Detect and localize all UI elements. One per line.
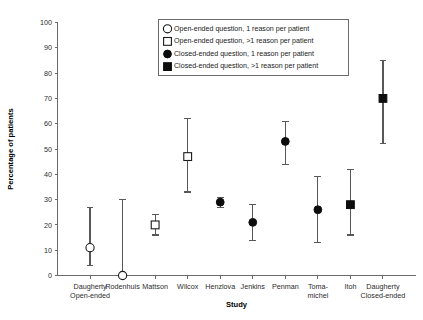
legend-item-label: Closed-ended question, 1 reason per pati… <box>174 50 314 58</box>
marker-filled-square <box>379 95 387 103</box>
x-axis-tick-label: Jenkins <box>241 282 266 291</box>
data-point[interactable] <box>216 197 224 207</box>
y-axis-tick-label: 70 <box>44 94 52 103</box>
y-axis-tick-label: 0 <box>48 271 52 280</box>
marker-open-square <box>151 221 159 229</box>
x-axis-tick-label: Itoh <box>344 282 356 291</box>
marker-filled-circle <box>281 138 289 146</box>
x-axis-tick-label: Daugherty <box>366 282 400 291</box>
x-axis-tick-label: Daugherty <box>73 282 107 291</box>
y-axis-tick-label: 100 <box>40 18 52 27</box>
y-axis-tick-label: 20 <box>44 221 52 230</box>
x-axis-tick-label: Mattson <box>142 282 168 291</box>
chart-figure: 0102030405060708090100DaughertyOpen-ende… <box>0 0 423 320</box>
legend-item[interactable]: Closed-ended question, 1 reason per pati… <box>164 50 314 58</box>
marker-filled-circle <box>216 198 224 206</box>
marker-open-circle <box>163 25 171 33</box>
y-axis-title: Percentage of patients <box>6 108 15 189</box>
legend-item[interactable]: Closed-ended question, >1 reason per pat… <box>164 62 319 70</box>
x-axis-tick-label: Toma- <box>308 282 329 291</box>
y-axis-tick-label: 50 <box>44 145 52 154</box>
x-axis-tick-label: Penman <box>272 282 299 291</box>
data-point[interactable] <box>184 119 192 192</box>
legend: Open-ended question, 1 reason per patien… <box>159 20 349 76</box>
data-point[interactable] <box>118 200 126 280</box>
x-axis-tick-label: Rodenhuis <box>105 282 140 291</box>
marker-filled-circle <box>164 50 172 58</box>
y-axis-tick-label: 60 <box>44 119 52 128</box>
marker-filled-square <box>164 63 172 71</box>
data-point[interactable] <box>379 60 387 143</box>
legend-item-label: Closed-ended question, >1 reason per pat… <box>174 62 318 70</box>
legend-item-label: Open-ended question, 1 reason per patien… <box>174 25 309 33</box>
marker-filled-circle <box>314 206 322 214</box>
y-axis-tick-label: 40 <box>44 170 52 179</box>
x-axis-tick-label: Henzlova <box>205 282 235 291</box>
y-axis-tick-label: 30 <box>44 195 52 204</box>
scatter-plot: 0102030405060708090100DaughertyOpen-ende… <box>0 0 423 320</box>
y-axis-tick-label: 80 <box>44 69 52 78</box>
x-axis-tick-label: Closed-ended <box>361 291 406 300</box>
legend-item-label: Open-ended question, >1 reason per patie… <box>174 37 313 45</box>
data-point[interactable] <box>249 205 257 240</box>
legend-item[interactable]: Open-ended question, 1 reason per patien… <box>163 25 309 33</box>
marker-filled-circle <box>249 218 257 226</box>
data-point[interactable] <box>347 169 355 235</box>
marker-open-square <box>164 38 172 46</box>
y-axis-tick-label: 90 <box>44 43 52 52</box>
legend-item[interactable]: Open-ended question, >1 reason per patie… <box>164 37 314 45</box>
data-point[interactable] <box>86 207 94 265</box>
marker-open-square <box>184 153 192 161</box>
x-axis-title: Study <box>226 300 248 309</box>
marker-filled-square <box>347 201 355 209</box>
data-point[interactable] <box>281 121 289 164</box>
marker-open-circle <box>118 271 126 279</box>
x-axis-tick-label: michel <box>307 291 328 300</box>
marker-open-circle <box>86 244 94 252</box>
data-point[interactable] <box>314 177 322 243</box>
x-axis-tick-label: Open-ended <box>70 291 110 300</box>
y-axis-tick-label: 10 <box>44 246 52 255</box>
data-point[interactable] <box>151 215 159 235</box>
x-axis-tick-label: Wilcox <box>177 282 199 291</box>
